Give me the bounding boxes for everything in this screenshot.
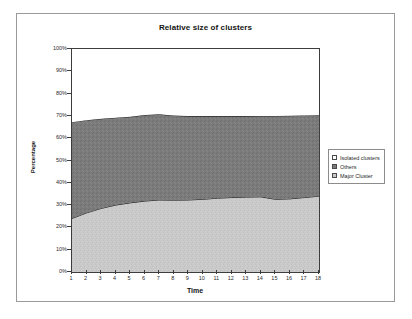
x-axis-title: Time xyxy=(71,287,319,294)
y-axis-tick-label: 10% xyxy=(33,246,67,252)
stacked-area-plot xyxy=(72,49,319,272)
y-axis-tick-label: 20% xyxy=(33,223,67,229)
area-series-major-cluster xyxy=(72,196,319,272)
legend-item[interactable]: Major Cluster xyxy=(332,171,380,180)
y-axis-tick-label: 70% xyxy=(33,112,67,118)
y-axis-tick-label: 60% xyxy=(33,134,67,140)
x-axis-tick-label: 18 xyxy=(310,275,326,281)
legend-item-label: Major Cluster xyxy=(340,172,373,180)
x-axis-tick-mark xyxy=(274,270,275,274)
x-axis-tick-mark xyxy=(158,270,159,274)
chart-title: Relative size of clusters xyxy=(17,23,394,32)
legend-item[interactable]: Isolated clusters xyxy=(332,153,380,162)
x-axis-labels: 123456789101112131415161718 xyxy=(71,275,320,287)
legend-swatch-icon xyxy=(332,173,337,178)
x-axis-tick-mark xyxy=(303,270,304,274)
legend-swatch-icon xyxy=(332,155,337,160)
x-axis-tick-mark xyxy=(318,270,319,274)
x-axis-tick-mark xyxy=(115,270,116,274)
y-axis-tick-label: 90% xyxy=(33,67,67,73)
legend-item[interactable]: Others xyxy=(332,162,380,171)
plot-area xyxy=(71,48,320,273)
y-axis-tick-label: 0% xyxy=(33,268,67,274)
chart-legend: Isolated clustersOthersMajor Cluster xyxy=(328,149,385,184)
legend-item-label: Others xyxy=(340,163,357,171)
legend-swatch-icon xyxy=(332,164,337,169)
x-axis-tick-mark xyxy=(100,270,101,274)
x-axis-tick-mark xyxy=(245,270,246,274)
y-axis-tick-label: 50% xyxy=(33,157,67,163)
x-axis-tick-mark xyxy=(289,270,290,274)
x-axis-tick-mark xyxy=(144,270,145,274)
y-axis-tick-label: 40% xyxy=(33,179,67,185)
x-axis-tick-mark xyxy=(260,270,261,274)
area-series-isolated-clusters xyxy=(72,49,319,122)
x-axis-tick-mark xyxy=(216,270,217,274)
chart-frame: Relative size of clusters Percentage 0%1… xyxy=(16,13,395,302)
y-axis-labels: 0%10%20%30%40%50%60%70%80%90%100% xyxy=(29,48,67,271)
x-axis-tick-mark xyxy=(173,270,174,274)
x-axis-tick-mark xyxy=(231,270,232,274)
x-axis-tick-mark xyxy=(86,270,87,274)
y-axis-tick-label: 80% xyxy=(33,90,67,96)
screenshot-root: Relative size of clusters Percentage 0%1… xyxy=(0,0,412,319)
legend-item-label: Isolated clusters xyxy=(340,154,380,162)
x-axis-tick-mark xyxy=(202,270,203,274)
y-axis-tick-label: 100% xyxy=(33,45,67,51)
x-axis-tick-mark xyxy=(71,270,72,274)
y-axis-tick-label: 30% xyxy=(33,201,67,207)
x-axis-tick-mark xyxy=(129,270,130,274)
x-axis-tick-mark xyxy=(187,270,188,274)
